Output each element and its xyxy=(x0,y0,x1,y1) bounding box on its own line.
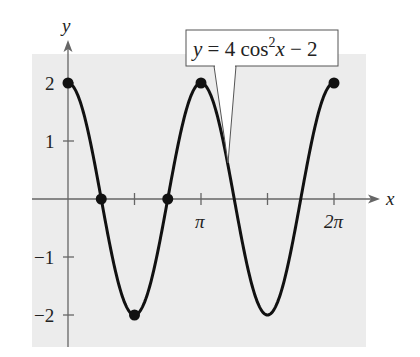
svg-text:−1: −1 xyxy=(34,247,54,268)
y-axis-label: y xyxy=(60,15,71,36)
svg-text:2: 2 xyxy=(45,73,55,94)
chart: x y 2 1 −1 −2 π 2π y = 4 cos2x − 2 xyxy=(0,0,420,357)
data-point xyxy=(96,194,107,205)
data-point xyxy=(63,78,74,89)
svg-text:π: π xyxy=(195,211,205,232)
svg-text:2π: 2π xyxy=(324,211,344,232)
plot-background xyxy=(32,54,366,347)
data-point xyxy=(329,78,340,89)
svg-text:1: 1 xyxy=(45,131,55,152)
equation-label: y = 4 cos2x − 2 xyxy=(191,35,318,61)
data-point xyxy=(196,78,207,89)
svg-text:−2: −2 xyxy=(34,305,54,326)
x-axis-label: x xyxy=(385,188,395,209)
data-point xyxy=(129,310,140,321)
data-point xyxy=(162,194,173,205)
